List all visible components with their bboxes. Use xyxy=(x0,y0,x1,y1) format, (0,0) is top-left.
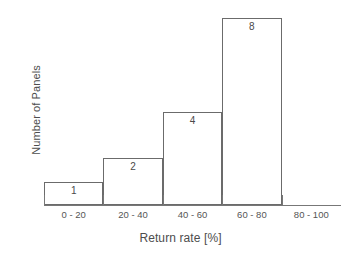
bar: 1 xyxy=(44,182,103,205)
x-axis-baseline xyxy=(44,205,341,206)
x-axis-tick-label: 40 - 60 xyxy=(163,208,222,222)
bar: 8 xyxy=(222,18,281,205)
x-axis-title: Return rate [%] xyxy=(0,231,361,245)
histogram-chart: Number of Panels 10 - 20220 - 40440 - 60… xyxy=(0,0,361,260)
x-axis-tick-label: 60 - 80 xyxy=(222,208,281,222)
x-axis-tick-label: 80 - 100 xyxy=(282,208,341,222)
bar: 4 xyxy=(163,112,222,206)
bar-value-label: 8 xyxy=(223,21,280,33)
x-axis-tick xyxy=(163,195,164,205)
y-axis-title: Number of Panels xyxy=(26,30,46,190)
x-axis-tick xyxy=(103,195,104,205)
bar-value-label: 2 xyxy=(104,161,161,173)
x-axis-tick-label: 0 - 20 xyxy=(44,208,103,222)
x-axis-tick xyxy=(44,195,45,205)
x-axis-tick xyxy=(222,195,223,205)
x-axis-tick xyxy=(282,195,283,205)
bar: 2 xyxy=(103,158,162,205)
x-axis-tick-label: 20 - 40 xyxy=(103,208,162,222)
bar-value-label: 1 xyxy=(45,185,102,197)
bar-value-label: 4 xyxy=(164,115,221,127)
